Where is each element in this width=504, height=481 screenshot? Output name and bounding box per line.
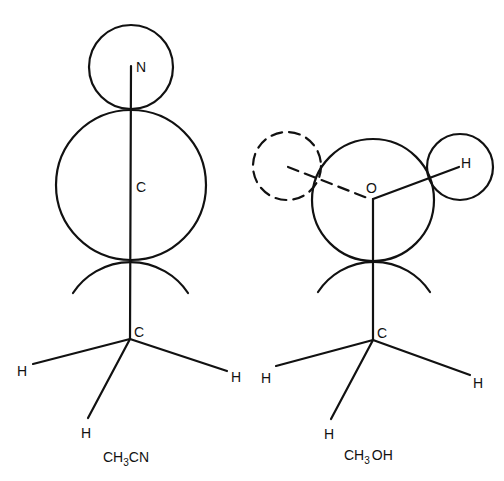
formula-ch3oh: CH3OH: [344, 447, 393, 466]
atom-label-h-down: H: [81, 425, 91, 441]
atom-label-h-right: H: [473, 375, 483, 391]
atom-label-c-nitrile: C: [136, 179, 146, 195]
atom-label-h-left: H: [17, 363, 27, 379]
hidden-hydrogen-sphere: [253, 132, 321, 200]
c-c-n-axis-bond: [130, 66, 131, 339]
atom-label-h-left: H: [261, 370, 271, 386]
oh-bond: [373, 167, 459, 199]
atom-label-n: N: [136, 59, 146, 75]
ch-bond-down: [331, 340, 373, 419]
molecular-diagram: N C C H H H CH3CN O H C H H H CH3OH: [0, 0, 504, 481]
ch-bond-left: [33, 339, 130, 364]
atom-label-h-down: H: [324, 426, 334, 442]
oh-bond-hidden: [288, 167, 370, 199]
ch-bond-right: [130, 339, 227, 371]
formula-ch3cn: CH3CN: [103, 449, 149, 468]
ch-bond-left: [276, 340, 373, 366]
molecule-ch3oh: O H C H H H CH3OH: [253, 132, 493, 466]
ch-bond-down: [88, 339, 130, 418]
atom-label-c-methyl: C: [134, 324, 144, 340]
atom-label-o: O: [366, 180, 377, 196]
molecule-ch3cn: N C C H H H CH3CN: [17, 25, 241, 468]
atom-label-h-right: H: [231, 369, 241, 385]
atom-label-c-methyl: C: [377, 325, 387, 341]
atom-label-h-hydroxyl: H: [461, 155, 471, 171]
ch-bond-right: [373, 340, 470, 375]
